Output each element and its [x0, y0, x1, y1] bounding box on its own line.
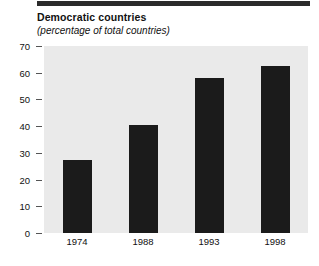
y-axis-tick-label: 70: [8, 41, 30, 52]
x-axis-labels: 1974198819931998: [44, 236, 308, 252]
y-axis-tick-mark: [36, 99, 42, 100]
y-axis-tick-mark: [36, 73, 42, 74]
y-axis-tick-label: 0: [8, 228, 30, 239]
y-axis-labels: 010203040506070: [8, 0, 30, 266]
y-axis-tick-mark: [36, 126, 42, 127]
plot-wrapper: 010203040506070 1974198819931998: [0, 0, 319, 266]
y-axis-tick-mark: [36, 206, 42, 207]
y-axis-tick-mark: [36, 46, 42, 47]
y-axis-tick-label: 50: [8, 94, 30, 105]
y-axis-tick-label: 40: [8, 121, 30, 132]
x-axis-tick-label: 1974: [66, 236, 87, 247]
y-axis-tick-label: 30: [8, 147, 30, 158]
x-axis-tick-label: 1998: [264, 236, 285, 247]
y-axis-ticks: [36, 0, 44, 266]
y-axis-tick-label: 60: [8, 67, 30, 78]
y-axis-tick-mark: [36, 153, 42, 154]
y-axis-tick-label: 20: [8, 174, 30, 185]
y-axis-tick-mark: [36, 233, 42, 234]
bars-layer: [44, 46, 308, 233]
y-axis-tick-label: 10: [8, 201, 30, 212]
chart-figure: Democratic countries (percentage of tota…: [0, 0, 319, 266]
x-axis-tick-label: 1988: [132, 236, 153, 247]
y-axis-tick-mark: [36, 180, 42, 181]
bar: [129, 125, 158, 233]
bar: [63, 160, 92, 233]
bar: [195, 78, 224, 233]
bar: [261, 66, 290, 233]
x-axis-tick-label: 1993: [198, 236, 219, 247]
